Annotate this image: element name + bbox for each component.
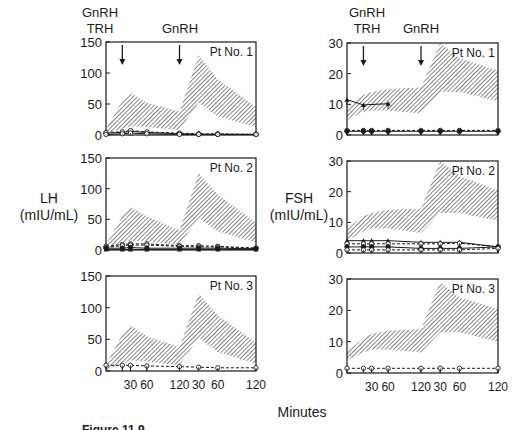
y-tick-label: 0: [95, 243, 102, 258]
minutes-axis-label: Minutes: [267, 404, 337, 421]
annotation-line: TRH: [345, 21, 389, 37]
x-tick-label: 30: [365, 380, 379, 394]
panel-title: Pt No. 3: [210, 279, 254, 293]
annotation-gnrh-left: GnRH: [158, 21, 202, 37]
normal-range-band: [106, 173, 256, 249]
panel-title: Pt No. 2: [452, 164, 496, 178]
x-tick-label: 120: [246, 378, 266, 392]
y-tick-label: 150: [80, 269, 102, 284]
y-tick-label: 30: [329, 272, 343, 287]
axis-label-line: LH: [14, 190, 84, 207]
arrowhead-icon: [360, 60, 366, 66]
y-tick-label: 150: [80, 35, 102, 50]
y-tick-label: 30: [329, 36, 343, 51]
chart-panel-lh-2: 050100150Pt No. 2: [80, 151, 258, 258]
chart-panel-fsh-3: 010203030601203060120Pt No. 3: [329, 272, 509, 394]
y-tick-label: 150: [80, 151, 102, 166]
y-tick-label: 20: [329, 303, 343, 318]
y-tick-label: 20: [329, 67, 343, 82]
x-tick-label: 60: [453, 380, 467, 394]
axis-label-line: (mIU/mL): [14, 207, 84, 224]
y-tick-label: 0: [95, 128, 102, 143]
chart-panel-lh-3: 05010015030601203060120Pt No. 3: [80, 269, 266, 392]
figure: 050100150Pt No. 10102030Pt No. 105010015…: [0, 0, 525, 430]
annotation-gnrh-trh-left: GnRH TRH: [78, 5, 122, 37]
normal-range-band: [106, 56, 256, 134]
y-tick-label: 100: [80, 66, 102, 81]
annotation-gnrh-trh-right: GnRH TRH: [345, 5, 389, 37]
chart-panel-lh-1: 050100150Pt No. 1: [80, 35, 258, 143]
y-tick-label: 100: [80, 301, 102, 316]
y-tick-label: 0: [336, 246, 343, 261]
y-tick-label: 50: [88, 332, 102, 347]
annotation-line: GnRH: [345, 5, 389, 21]
x-tick-label: 60: [211, 378, 225, 392]
annotation-line: TRH: [78, 21, 122, 37]
arrowhead-icon: [177, 59, 183, 65]
x-tick-label: 30: [434, 380, 448, 394]
normal-range-band: [106, 294, 256, 370]
panel-title: Pt No. 1: [452, 46, 496, 60]
y-tick-label: 10: [329, 335, 343, 350]
y-tick-label: 10: [329, 97, 343, 112]
y-tick-label: 30: [329, 154, 343, 169]
chart-panel-fsh-2: 0102030Pt No. 2: [329, 154, 501, 261]
axis-label-line: (mIU/mL): [262, 207, 336, 224]
panel-title: Pt No. 2: [210, 161, 254, 175]
fsh-axis-label: FSH (mIU/mL): [262, 190, 336, 224]
panel-title: Pt No. 3: [452, 282, 496, 296]
y-tick-label: 50: [88, 97, 102, 112]
annotation-line: GnRH: [78, 5, 122, 21]
arrowhead-icon: [119, 59, 125, 65]
x-tick-label: 120: [169, 378, 189, 392]
lh-axis-label: LH (mIU/mL): [14, 190, 84, 224]
axis-label-line: FSH: [262, 190, 336, 207]
arrowhead-icon: [418, 60, 424, 66]
x-tick-label: 120: [488, 380, 508, 394]
y-tick-label: 50: [88, 212, 102, 227]
x-tick-label: 120: [411, 380, 431, 394]
x-tick-label: 60: [140, 378, 154, 392]
figure-caption: Figure 11.9: [82, 423, 172, 430]
annotation-gnrh-right: GnRH: [399, 21, 443, 37]
y-tick-label: 0: [336, 128, 343, 143]
x-tick-label: 60: [381, 380, 395, 394]
y-tick-label: 0: [95, 364, 102, 379]
chart-panel-fsh-1: 0102030Pt No. 1: [329, 36, 501, 143]
panel-title: Pt No. 1: [210, 45, 254, 59]
y-tick-label: 0: [336, 366, 343, 381]
x-tick-label: 30: [124, 378, 138, 392]
x-tick-label: 30: [192, 378, 206, 392]
